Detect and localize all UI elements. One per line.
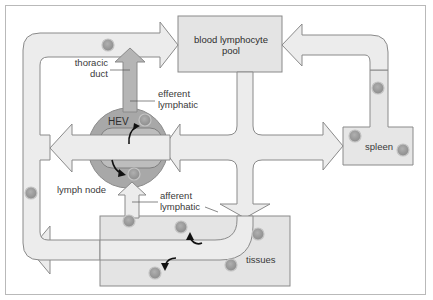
- lymph-node-label: lymph node: [57, 184, 106, 195]
- lymphocyte-cell: [139, 114, 151, 126]
- lymphocyte-cell: [397, 144, 409, 156]
- lymphocyte-cell: [123, 215, 135, 227]
- blood-pool-label: blood lymphocyte pool: [184, 34, 278, 56]
- thoracic-label-line2: duct: [68, 68, 108, 79]
- lymphocyte-cell: [102, 39, 114, 51]
- afferent-lymphatic-label: afferent lymphatic: [160, 190, 200, 212]
- lymphocyte-cell: [128, 168, 140, 180]
- lymphocyte-cell: [372, 82, 384, 94]
- hev-label: HEV: [108, 116, 129, 127]
- lymphocyte-cell: [175, 221, 187, 233]
- lymphocyte-cell: [25, 187, 37, 199]
- lymphocyte-cell: [149, 267, 161, 279]
- thoracic-label-line1: thoracic: [68, 57, 108, 68]
- lymphocyte-cell: [349, 130, 361, 142]
- lymphocyte-cell: [252, 228, 264, 240]
- spleen-label: spleen: [365, 141, 393, 152]
- afferent-label-line1: afferent: [160, 190, 200, 201]
- efferent-lymphatic-label: efferent lymphatic: [158, 88, 198, 110]
- thoracic-duct-label: thoracic duct: [68, 57, 108, 79]
- tissues-label: tissues: [246, 254, 276, 265]
- blood-pool-label-line2: pool: [184, 45, 278, 56]
- afferent-label-line2: lymphatic: [160, 201, 200, 212]
- blood-pool-label-line1: blood lymphocyte: [184, 34, 278, 45]
- efferent-thoracic-arrow: [115, 48, 145, 112]
- afferent-pointer-tail: [205, 207, 218, 212]
- lymphocyte-cell: [225, 259, 237, 271]
- right-loop-arrow: [282, 24, 388, 70]
- efferent-label-line1: efferent: [158, 88, 198, 99]
- efferent-label-line2: lymphatic: [158, 99, 198, 110]
